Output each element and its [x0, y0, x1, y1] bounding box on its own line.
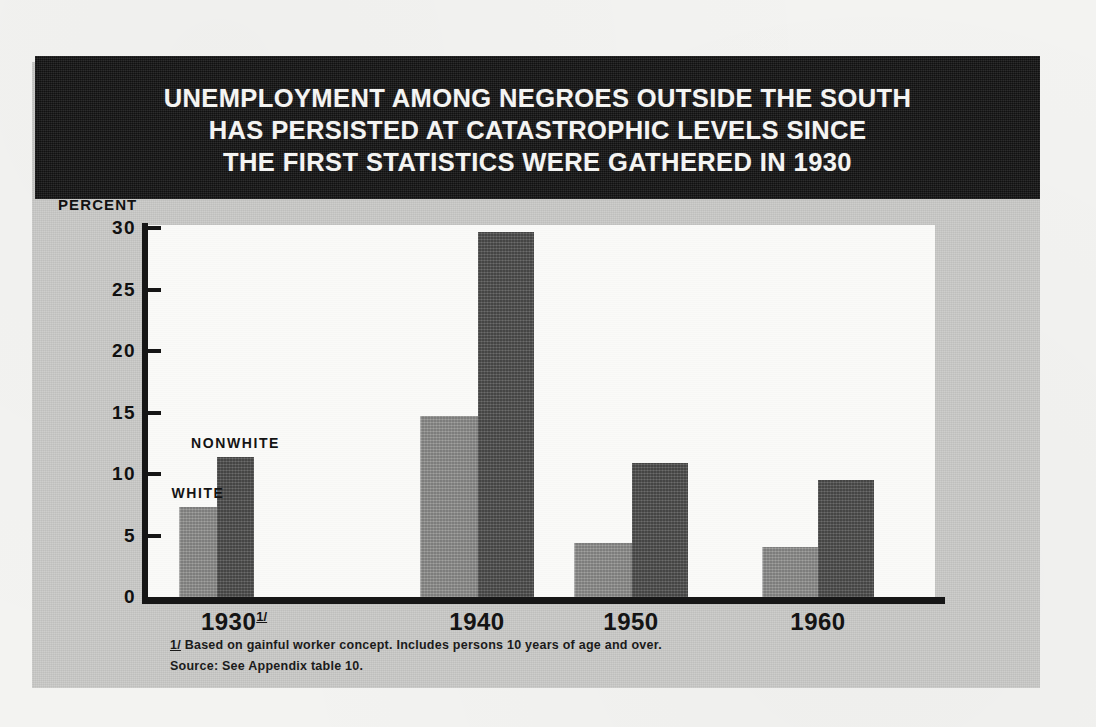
x-axis-label-1950: 1950 [603, 608, 658, 636]
x-axis-label-text: 1940 [449, 608, 504, 635]
footnote-text-1: Based on gainful worker concept. Include… [181, 638, 662, 652]
x-axis-label-1960: 1960 [790, 608, 845, 636]
x-axis-label-text: 1960 [790, 608, 845, 635]
x-axis-category-labels: 19301/194019501960 [0, 0, 1096, 727]
footnote-text-2: Source: See Appendix table 10. [170, 659, 363, 673]
x-axis-label-text: 1950 [603, 608, 658, 635]
x-axis-label-footnote-marker: 1/ [256, 609, 267, 624]
x-axis-label-1940: 1940 [449, 608, 504, 636]
footnote-2: Source: See Appendix table 10. [170, 659, 970, 673]
footnotes: 1/ Based on gainful worker concept. Incl… [170, 638, 970, 680]
footnote-marker-1: 1/ [170, 638, 181, 652]
x-axis-label-text: 1930 [201, 608, 256, 635]
x-axis-label-1930: 19301/ [201, 608, 267, 636]
footnote-1: 1/ Based on gainful worker concept. Incl… [170, 638, 970, 652]
